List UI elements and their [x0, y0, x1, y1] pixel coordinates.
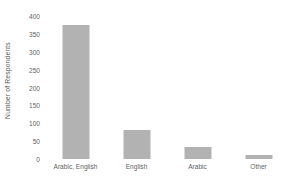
y-axis-tick-label: 350 [29, 30, 40, 37]
y-axis-tick-label: 150 [29, 102, 40, 109]
y-axis-tick-labels: 050100150200250300350400 [16, 0, 42, 186]
bar-slot [228, 16, 289, 159]
bar[interactable] [123, 130, 150, 159]
plot-area [45, 16, 289, 159]
y-axis-title-label: Number of Respondents [4, 42, 11, 119]
x-axis-tick-label: Arabic, English [54, 163, 98, 170]
y-axis-tick-label: 250 [29, 66, 40, 73]
y-axis-title: Number of Respondents [0, 0, 14, 160]
y-axis-tick-label: 200 [29, 84, 40, 91]
bar[interactable] [245, 155, 272, 159]
y-axis-tick-label: 0 [36, 156, 40, 163]
y-axis-tick-label: 300 [29, 48, 40, 55]
x-axis-tick-label: Arabic [188, 163, 207, 170]
bar[interactable] [184, 147, 211, 159]
bar-slot [106, 16, 167, 159]
bar-slot [45, 16, 106, 159]
y-axis-tick-label: 50 [33, 138, 40, 145]
x-axis-tick-label: Other [250, 163, 267, 170]
bar-slot [167, 16, 228, 159]
bar[interactable] [62, 25, 89, 159]
bar-chart: Number of Respondents 050100150200250300… [0, 0, 292, 186]
x-axis-tick-label: English [126, 163, 148, 170]
y-axis-tick-label: 400 [29, 13, 40, 20]
y-axis-tick-label: 100 [29, 120, 40, 127]
x-axis-tick-labels: Arabic, EnglishEnglishArabicOther [45, 163, 289, 183]
